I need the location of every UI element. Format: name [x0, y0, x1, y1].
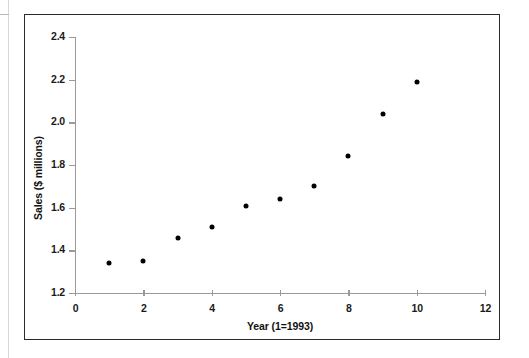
x-axis-title: Year (1=1993) — [247, 320, 313, 332]
y-tick-label: 2.0 — [51, 115, 65, 127]
x-tick-label: 0 — [73, 302, 79, 314]
x-tick-8: 8 — [348, 290, 349, 296]
page-edge-artifact — [8, 0, 9, 358]
chart-figure-frame: 1.21.41.61.82.02.22.4 024681012 Sales ($… — [24, 14, 500, 340]
y-tick-1.8: 1.8 — [69, 165, 75, 166]
x-tick-6: 6 — [280, 290, 281, 296]
y-tick-2.0: 2.0 — [69, 122, 75, 123]
y-tick-label: 2.2 — [51, 73, 65, 85]
x-tick-label: 10 — [411, 302, 423, 314]
data-point — [141, 259, 146, 264]
data-point — [107, 261, 112, 266]
x-tick-label: 2 — [141, 302, 147, 314]
data-point — [380, 111, 385, 116]
y-tick-label: 2.4 — [51, 30, 65, 42]
y-tick-label: 1.8 — [51, 158, 65, 170]
x-tick-4: 4 — [212, 290, 213, 296]
x-tick-12: 12 — [485, 290, 486, 296]
x-tick-label: 4 — [209, 302, 215, 314]
y-tick-label: 1.2 — [51, 286, 65, 298]
data-point — [346, 154, 351, 159]
y-tick-label: 1.4 — [51, 243, 65, 255]
data-point — [278, 197, 283, 202]
data-point — [414, 79, 419, 84]
x-tick-label: 6 — [278, 302, 284, 314]
data-point — [243, 203, 248, 208]
y-tick-label: 1.6 — [51, 201, 65, 213]
x-tick-label: 12 — [480, 302, 492, 314]
y-tick-1.6: 1.6 — [69, 208, 75, 209]
data-point — [209, 224, 214, 229]
x-tick-2: 2 — [143, 290, 144, 296]
x-tick-0: 0 — [75, 290, 76, 296]
data-point — [312, 184, 317, 189]
y-axis-line — [75, 37, 76, 293]
scatter-plot-area: 1.21.41.61.82.02.22.4 024681012 — [25, 15, 501, 341]
y-tick-2.2: 2.2 — [69, 80, 75, 81]
y-axis-title: Sales ($ millions) — [32, 136, 44, 220]
x-tick-10: 10 — [417, 290, 418, 296]
page-edge-tick-mark — [0, 14, 9, 15]
y-tick-1.4: 1.4 — [69, 250, 75, 251]
data-point — [175, 235, 180, 240]
y-tick-2.4: 2.4 — [69, 37, 75, 38]
x-tick-label: 8 — [346, 302, 352, 314]
